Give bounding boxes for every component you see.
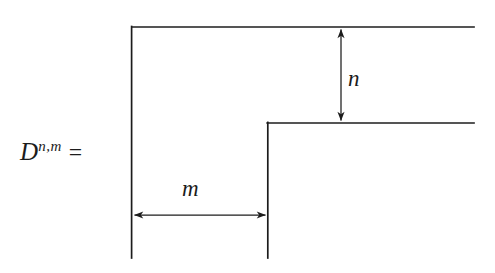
m-dimension-label: m xyxy=(182,177,199,200)
equation-base: D xyxy=(20,138,38,165)
equation-label: Dn,m= xyxy=(20,139,82,165)
n-dimension-label: n xyxy=(348,67,360,90)
equation-relation-sign: = xyxy=(69,139,83,165)
equation-superscript: n,m xyxy=(38,138,62,154)
figure-canvas: Dn,m= n m xyxy=(0,0,495,273)
staircase-diagram-svg xyxy=(0,0,495,273)
